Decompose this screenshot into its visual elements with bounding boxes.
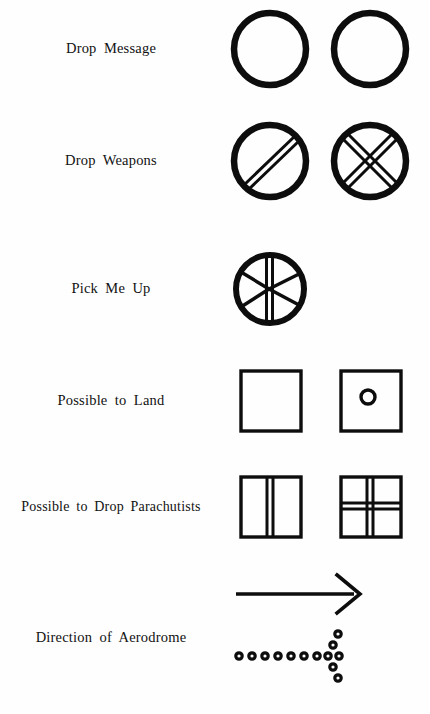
circle-with-diagonal-bar-icon [228, 119, 312, 203]
row-label: Pick Me Up [0, 281, 228, 297]
square-with-grid-icon [336, 472, 406, 542]
row-label: Direction of Aerodrome [0, 630, 228, 646]
symbol-group [228, 472, 430, 542]
legend-row-drop-weapons: Drop Weapons [0, 120, 430, 202]
symbol-group [228, 366, 430, 436]
square-with-dot-icon [336, 366, 406, 436]
circle-with-spokes-icon [228, 247, 312, 331]
symbol-group [228, 119, 430, 203]
row-label: Possible to Land [0, 393, 228, 409]
row-label: Drop Message [0, 41, 228, 57]
symbol-group [228, 7, 430, 91]
symbol-group [228, 571, 430, 685]
circle-outline-icon [228, 7, 312, 91]
arrow-right-icon [232, 571, 367, 617]
legend-row-pick-me-up: Pick Me Up [0, 248, 430, 330]
circle-outline-icon [328, 7, 412, 91]
row-label: Drop Weapons [0, 153, 228, 169]
legend-row-possible-to-land: Possible to Land [0, 366, 430, 436]
symbol-group [228, 247, 430, 331]
arrow-right-dotted-icon [232, 627, 367, 685]
square-with-vertical-bar-icon [236, 472, 306, 542]
row-label: Possible to Drop Parachutists [0, 499, 228, 514]
legend-row-drop-message: Drop Message [0, 8, 430, 90]
square-outline-icon [236, 366, 306, 436]
chart-sheet: Drop Message Drop Weapons [0, 0, 430, 714]
circle-with-cross-icon [328, 119, 412, 203]
legend-row-possible-to-drop-parachutists: Possible to Drop Parachutists [0, 472, 430, 542]
legend-row-direction-of-aerodrome: Direction of Aerodrome [0, 570, 430, 685]
